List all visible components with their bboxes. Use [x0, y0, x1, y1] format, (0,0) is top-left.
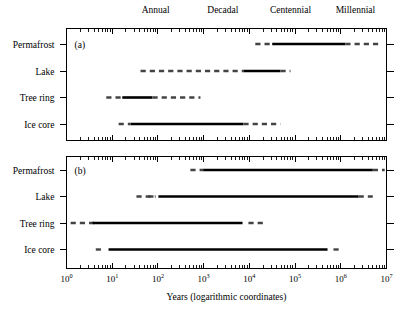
panel-tag-a: (a): [75, 40, 86, 51]
row-label-ice-core: Ice core: [24, 120, 54, 130]
x-axis-title: Years (logarithmic coordinates): [167, 292, 287, 303]
archive-timescale-chart: AnnualDecadalCentennialMillennial(a)Perm…: [0, 0, 410, 312]
era-label-centennial: Centennial: [270, 5, 312, 15]
xtick-label-1e3: 103: [198, 272, 210, 284]
row-label-tree-ring: Tree ring: [20, 93, 55, 103]
row-label-permafrost: Permafrost: [13, 166, 55, 176]
row-label-lake: Lake: [36, 67, 55, 77]
xtick-label-1e7: 107: [380, 272, 392, 284]
row-label-permafrost: Permafrost: [13, 40, 55, 50]
row-label-lake: Lake: [36, 192, 55, 202]
era-label-millennial: Millennial: [336, 5, 376, 15]
panel-tag-b: (b): [75, 166, 86, 177]
row-label-ice-core: Ice core: [24, 245, 54, 255]
xtick-label-1e0: 100: [60, 272, 72, 284]
era-label-decadal: Decadal: [207, 5, 238, 15]
xtick-label-1e4: 104: [243, 272, 255, 284]
xtick-label-1e1: 101: [106, 272, 118, 284]
figure-container: AnnualDecadalCentennialMillennial(a)Perm…: [0, 0, 410, 312]
xtick-label-1e2: 102: [152, 272, 164, 284]
xtick-label-1e6: 106: [335, 272, 347, 284]
row-label-tree-ring: Tree ring: [20, 219, 55, 229]
xtick-label-1e5: 105: [289, 272, 301, 284]
panel-frame-b: [67, 157, 387, 269]
era-label-annual: Annual: [142, 5, 170, 15]
